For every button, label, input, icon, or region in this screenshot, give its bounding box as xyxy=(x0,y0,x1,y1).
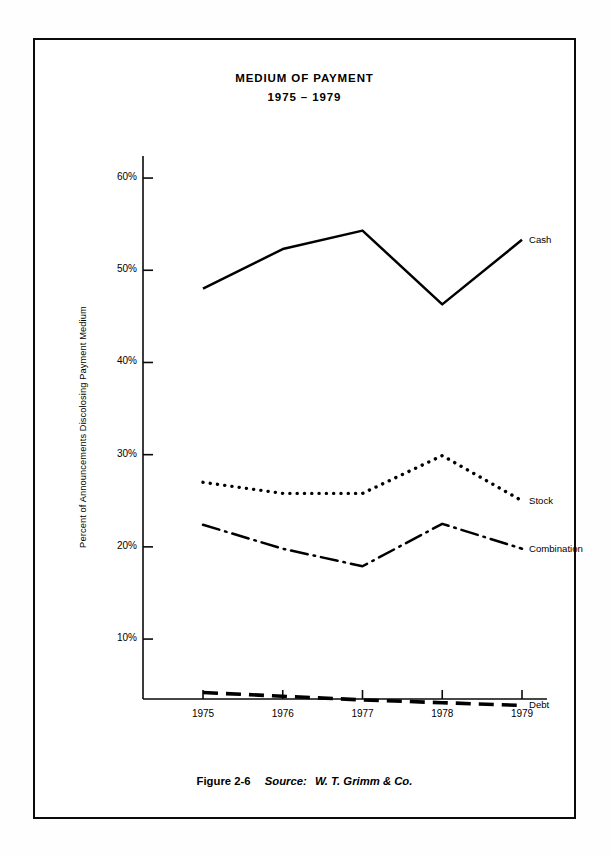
series-label-cash: Cash xyxy=(529,234,551,245)
y-tick-label: 30% xyxy=(97,448,137,459)
caption-figure-number: Figure 2-6 xyxy=(197,775,251,787)
series-line-stock xyxy=(203,456,522,501)
y-tick-label: 50% xyxy=(97,263,137,274)
caption-source-name: W. T. Grimm & Co. xyxy=(315,775,413,787)
x-tick-label: 1977 xyxy=(340,708,386,719)
series-label-stock: Stock xyxy=(529,495,553,506)
axes-group xyxy=(143,156,547,699)
y-axis-title: Percent of Announcements Discolosing Pay… xyxy=(78,302,88,552)
y-tick-label: 60% xyxy=(97,171,137,182)
plot-area: Percent of Announcements Discolosing Pay… xyxy=(35,40,578,821)
chart-canvas xyxy=(35,40,578,821)
series-group xyxy=(203,231,522,706)
figure-border-frame: MEDIUM OF PAYMENT 1975 – 1979 Percent of… xyxy=(33,38,576,819)
x-tick-label: 1975 xyxy=(180,708,226,719)
figure-page: MEDIUM OF PAYMENT 1975 – 1979 Percent of… xyxy=(0,0,610,857)
figure-caption: Figure 2-6 Source: W. T. Grimm & Co. xyxy=(35,775,574,787)
caption-source-label: Source: xyxy=(265,775,307,787)
y-tick-label: 20% xyxy=(97,540,137,551)
y-tick-label: 40% xyxy=(97,355,137,366)
series-label-combination: Combination xyxy=(529,543,583,554)
x-tick-label: 1976 xyxy=(260,708,306,719)
series-label-debt: Debt xyxy=(529,699,549,710)
y-tick-label: 10% xyxy=(97,632,137,643)
series-line-cash xyxy=(203,231,522,305)
series-line-combination xyxy=(203,524,522,566)
x-tick-label: 1978 xyxy=(419,708,465,719)
